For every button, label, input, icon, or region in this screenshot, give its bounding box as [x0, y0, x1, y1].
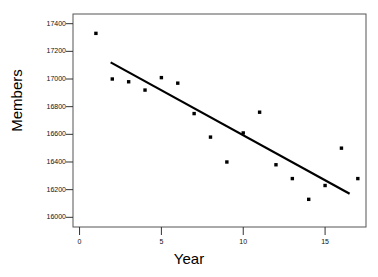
y-tick-label: 16200 — [20, 186, 66, 193]
scatter-plot-figure: Members Year 160001620016400166001680017… — [0, 0, 378, 277]
y-tick-label: 16000 — [20, 213, 66, 220]
data-point — [258, 111, 261, 114]
axes-frame — [73, 14, 366, 227]
data-point — [94, 32, 97, 35]
data-point — [274, 163, 277, 166]
data-point — [242, 131, 245, 134]
plot-frame — [73, 14, 366, 227]
y-tick-label: 17000 — [20, 75, 66, 82]
y-tick-label: 16800 — [20, 103, 66, 110]
x-tick-label: 0 — [60, 238, 100, 245]
data-point — [176, 81, 179, 84]
x-tick-label: 15 — [305, 238, 345, 245]
data-point — [340, 146, 343, 149]
data-point — [160, 76, 163, 79]
data-point — [143, 88, 146, 91]
data-point — [291, 177, 294, 180]
y-tick-label: 17200 — [20, 47, 66, 54]
y-tick-label: 16600 — [20, 130, 66, 137]
y-tick-label: 16400 — [20, 158, 66, 165]
x-tick-label: 10 — [223, 238, 263, 245]
data-point — [209, 135, 212, 138]
data-point — [307, 198, 310, 201]
y-axis-ticks — [66, 24, 73, 218]
fit-line — [111, 62, 350, 193]
data-points — [94, 32, 359, 201]
data-point — [192, 112, 195, 115]
x-tick-label: 5 — [141, 238, 181, 245]
data-point — [323, 184, 326, 187]
y-tick-label: 17400 — [20, 20, 66, 27]
data-point — [111, 77, 114, 80]
data-point — [225, 160, 228, 163]
data-point — [127, 80, 130, 83]
plot-canvas — [0, 0, 378, 277]
data-point — [356, 177, 359, 180]
x-axis-ticks — [80, 227, 326, 235]
regression-line — [111, 62, 350, 193]
